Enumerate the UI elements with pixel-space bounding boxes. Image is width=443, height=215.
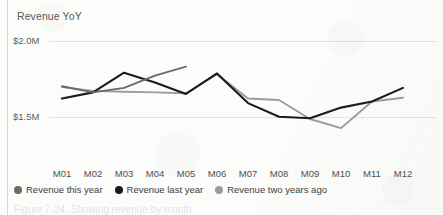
legend-item-revenue-last-year[interactable]: Revenue last year xyxy=(115,185,204,195)
x-tick-label-m01: M01 xyxy=(47,168,77,179)
figure-caption-cutoff: Figure 7-24. Showing revenue by month xyxy=(14,204,192,215)
legend-dot-this-year-icon xyxy=(14,186,22,194)
x-tick-label-m10: M10 xyxy=(326,168,356,179)
legend-dot-last-year-icon xyxy=(115,186,123,194)
y-tick-label-1-5m: $1.5M xyxy=(13,111,39,122)
legend-label-revenue-last-year: Revenue last year xyxy=(127,185,204,195)
y-tick-label-2-0m: $2.0M xyxy=(13,35,39,46)
plot-area: $2.0M $1.5M M01 M02 M03 M04 M05 M06 M07 … xyxy=(0,0,443,215)
x-tick-label-m06: M06 xyxy=(202,168,232,179)
x-tick-label-m02: M02 xyxy=(78,168,108,179)
legend-dot-two-years-ago-icon xyxy=(215,186,223,194)
x-tick-label-m09: M09 xyxy=(295,168,325,179)
legend-label-revenue-two-years-ago: Revenue two years ago xyxy=(227,185,327,195)
series-line-revenue-last-year xyxy=(62,73,403,119)
legend-item-revenue-this-year[interactable]: Revenue this year xyxy=(14,185,103,195)
legend-item-revenue-two-years-ago[interactable]: Revenue two years ago xyxy=(215,185,327,195)
chart-figure: Revenue YoY $2.0M $1.5M M01 M02 M03 M04 … xyxy=(0,0,443,215)
chart-legend: Revenue this year Revenue last year Reve… xyxy=(14,185,327,195)
x-tick-label-m11: M11 xyxy=(357,168,387,179)
series-line-revenue-two-years-ago xyxy=(62,74,403,128)
x-tick-label-m12: M12 xyxy=(388,168,418,179)
x-tick-label-m03: M03 xyxy=(109,168,139,179)
x-tick-label-m04: M04 xyxy=(140,168,170,179)
x-tick-label-m08: M08 xyxy=(264,168,294,179)
x-tick-label-m05: M05 xyxy=(171,168,201,179)
legend-label-revenue-this-year: Revenue this year xyxy=(26,185,103,195)
x-tick-label-m07: M07 xyxy=(233,168,263,179)
line-chart-svg xyxy=(0,0,443,215)
